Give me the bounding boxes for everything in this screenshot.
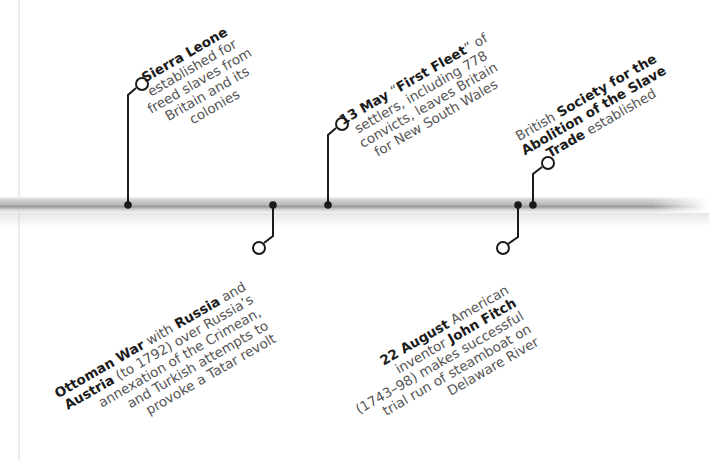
timeline-dot-icon	[124, 201, 132, 209]
connector-first-fleet	[328, 118, 348, 205]
connector-ottoman-war	[253, 205, 273, 254]
timeline-dot-icon	[269, 201, 277, 209]
event-circle-icon	[253, 242, 265, 254]
event-circle-icon	[497, 242, 509, 254]
connector-john-fitch	[497, 205, 518, 254]
timeline-dot-icon	[324, 201, 332, 209]
timeline-dot-icon	[529, 201, 537, 209]
timeline-dot-icon	[514, 201, 522, 209]
